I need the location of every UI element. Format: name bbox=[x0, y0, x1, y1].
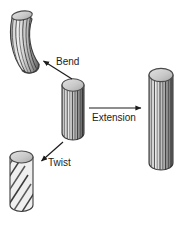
twist-label: Twist bbox=[48, 157, 71, 168]
twisted-cylinder bbox=[2, 148, 38, 228]
extended-cylinder bbox=[149, 68, 173, 172]
reference-cylinder-body bbox=[62, 85, 84, 140]
extended-cylinder-cap bbox=[149, 68, 173, 81]
figure-canvas: Bend Twist Extension bbox=[0, 0, 178, 230]
reference-cylinder-cap bbox=[62, 79, 84, 91]
extension-label: Extension bbox=[92, 112, 136, 123]
extended-cylinder-body bbox=[149, 75, 173, 170]
bend-label: Bend bbox=[56, 56, 79, 67]
bent-cylinder bbox=[10, 10, 39, 74]
reference-cylinder bbox=[62, 79, 84, 141]
deformation-diagram: Bend Twist Extension bbox=[0, 0, 178, 230]
twisted-cylinder-cap bbox=[10, 151, 33, 163]
